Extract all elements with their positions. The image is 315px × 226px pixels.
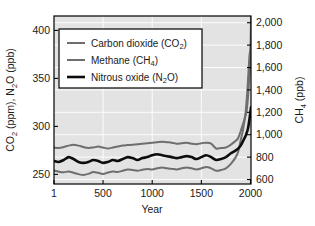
y-axis-left-title: CO2 (ppm), N2O (ppb) xyxy=(4,48,19,151)
y-axis-right-title: CH4 (ppb) xyxy=(293,77,308,124)
ytick-label-right-1400: 1,400 xyxy=(256,84,282,96)
xtick-label-1000: 1000 xyxy=(141,187,165,199)
xtick-label-500: 500 xyxy=(94,187,112,199)
ytick-label-left-250: 250 xyxy=(32,168,50,180)
right-title-end: (ppb) xyxy=(293,77,305,104)
chart-canvas: 2503003504006008001,0001,2001,4001,6001,… xyxy=(0,0,315,226)
ytick-label-right-600: 600 xyxy=(256,173,274,185)
ytick-label-right-1000: 1,000 xyxy=(256,128,282,140)
ytick-label-right-800: 800 xyxy=(256,151,274,163)
ytick-label-left-350: 350 xyxy=(32,72,50,84)
ytick-label-right-1600: 1,600 xyxy=(256,61,282,73)
ytick-label-right-2000: 2,000 xyxy=(256,16,282,28)
ghg-concentration-chart-figure: 2503003504006008001,0001,2001,4001,6001,… xyxy=(0,0,315,226)
ytick-label-right-1200: 1,200 xyxy=(256,106,282,118)
xtick-label-1500: 1500 xyxy=(190,187,214,199)
svg-text:CO2 (ppm), N2O (ppb): CO2 (ppm), N2O (ppb) xyxy=(4,48,19,151)
left-title-end: O (ppb) xyxy=(4,48,16,84)
xtick-label-1: 1 xyxy=(51,187,57,199)
x-axis-title: Year xyxy=(141,203,163,215)
ytick-label-right-1800: 1,800 xyxy=(256,39,282,51)
xtick-label-2000: 2000 xyxy=(239,187,263,199)
ytick-label-left-300: 300 xyxy=(32,120,50,132)
right-title-ch4: CH xyxy=(293,108,305,123)
chart-legend: Carbon dioxide (CO2)Methane (CH4)Nitrous… xyxy=(59,29,202,88)
svg-text:CH4 (ppb): CH4 (ppb) xyxy=(293,77,308,124)
ytick-label-left-400: 400 xyxy=(32,24,50,36)
x-title-text: Year xyxy=(141,203,163,215)
left-title-mid: (ppm), N xyxy=(4,88,16,132)
left-title-co2: CO xyxy=(4,136,16,152)
